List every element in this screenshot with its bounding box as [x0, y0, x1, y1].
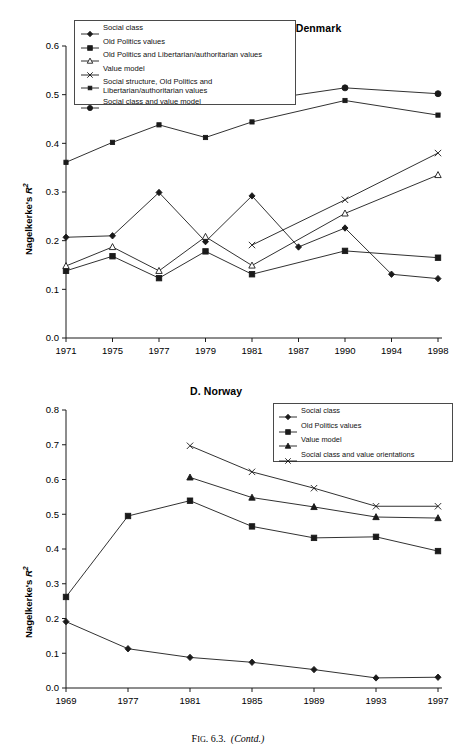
svg-text:1981: 1981	[179, 695, 200, 706]
caption-fig-small: IG	[197, 735, 206, 744]
svg-text:0.2: 0.2	[46, 235, 59, 246]
svg-text:1998: 1998	[427, 345, 448, 356]
legend-label: Social class and value model	[103, 98, 201, 107]
legend-item: Value model	[80, 65, 290, 76]
diamond-filled-icon	[278, 408, 298, 418]
svg-text:0.3: 0.3	[46, 186, 59, 197]
legend-item: Social class	[80, 24, 290, 35]
svg-text:1993: 1993	[365, 695, 386, 706]
square-filled-icon	[80, 39, 100, 49]
svg-text:1989: 1989	[303, 695, 324, 706]
legend-item: Social class and value orientations	[278, 451, 448, 462]
svg-text:0.4: 0.4	[46, 543, 59, 554]
legend-item: Old Politics values	[80, 38, 290, 49]
legend-label: Value model	[103, 65, 145, 74]
legend-label: Value model	[301, 436, 342, 444]
legend-norway: Social classOld Politics valuesValue mod…	[273, 403, 453, 462]
svg-text:1977: 1977	[148, 345, 169, 356]
legend-item: Social class and value model	[80, 98, 290, 109]
legend-label: Old Politics and Libertarian/authoritari…	[103, 51, 262, 60]
svg-text:0.0: 0.0	[46, 332, 59, 343]
cross-x-icon	[278, 452, 298, 462]
svg-text:1987: 1987	[288, 345, 309, 356]
svg-text:1975: 1975	[102, 345, 123, 356]
svg-text:0.0: 0.0	[46, 682, 59, 693]
svg-text:0.6: 0.6	[46, 474, 59, 485]
chart-panel-denmark: C. Denmark Nagelkerke's R2 0.00.10.20.30…	[0, 0, 456, 380]
legend-denmark: Social classOld Politics valuesOld Polit…	[74, 20, 296, 105]
svg-text:0.5: 0.5	[46, 509, 59, 520]
legend-label: Old Politics values	[103, 38, 165, 47]
figure-page: C. Denmark Nagelkerke's R2 0.00.10.20.30…	[0, 0, 456, 755]
triangle-filled-icon	[278, 437, 298, 447]
legend-item: Old Politics and Libertarian/authoritari…	[80, 51, 290, 62]
svg-text:1985: 1985	[241, 695, 262, 706]
svg-text:0.3: 0.3	[46, 578, 59, 589]
legend-label: Old Politics values	[301, 422, 361, 430]
svg-text:0.4: 0.4	[46, 138, 59, 149]
triangle-open-icon	[80, 52, 100, 62]
svg-text:0.6: 0.6	[46, 40, 59, 51]
legend-label: Social structure, Old Politics and Liber…	[103, 78, 290, 95]
diamond-filled-icon	[80, 25, 100, 35]
caption-contd: (Contd.)	[231, 733, 265, 744]
svg-text:1969: 1969	[55, 695, 76, 706]
svg-text:1981: 1981	[241, 345, 262, 356]
legend-label: Social class	[301, 407, 340, 415]
square-filled-icon	[278, 423, 298, 433]
svg-text:0.7: 0.7	[46, 439, 59, 450]
square-small-filled-icon	[80, 79, 100, 89]
figure-caption: FIG. 6.3. (Contd.)	[0, 733, 456, 744]
svg-text:1994: 1994	[381, 345, 402, 356]
svg-text:1997: 1997	[427, 695, 448, 706]
svg-text:0.2: 0.2	[46, 613, 59, 624]
caption-fig-number: . 6.3.	[206, 733, 226, 744]
circle-filled-icon	[80, 99, 100, 109]
legend-label: Social class and value orientations	[301, 451, 414, 459]
svg-text:0.8: 0.8	[46, 404, 59, 415]
svg-text:1971: 1971	[55, 345, 76, 356]
legend-item: Social class	[278, 407, 448, 418]
svg-text:1979: 1979	[195, 345, 216, 356]
svg-text:0.5: 0.5	[46, 89, 59, 100]
svg-text:1977: 1977	[117, 695, 138, 706]
legend-item: Value model	[278, 436, 448, 447]
cross-x-icon	[80, 66, 100, 76]
legend-item: Social structure, Old Politics and Liber…	[80, 78, 290, 95]
svg-text:0.1: 0.1	[46, 284, 59, 295]
svg-text:0.1: 0.1	[46, 648, 59, 659]
legend-item: Old Politics values	[278, 422, 448, 433]
svg-text:1990: 1990	[334, 345, 355, 356]
legend-label: Social class	[103, 24, 143, 33]
